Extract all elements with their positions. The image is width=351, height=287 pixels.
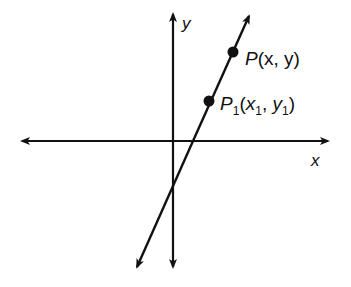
y-axis-label: y [181, 14, 192, 33]
diagram-canvas: y x P(x, y) P1(x1, y1) [0, 0, 351, 287]
line-down-arrow-icon [137, 141, 193, 267]
point-p [228, 47, 239, 58]
point-p-label: P(x, y) [245, 48, 300, 69]
point-p1-label: P1(x1, y1) [220, 93, 295, 118]
line-up-arrow-icon [193, 16, 249, 141]
point-p1 [204, 96, 215, 107]
coordinate-plane: y x P(x, y) P1(x1, y1) [0, 0, 351, 287]
x-axis-label: x [310, 151, 320, 170]
